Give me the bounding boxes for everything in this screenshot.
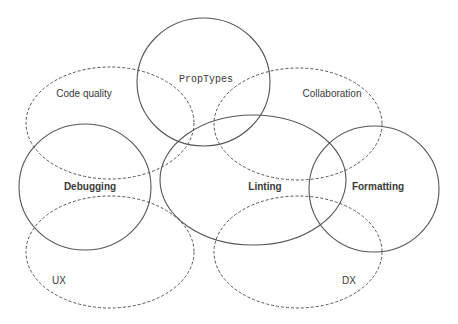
dx-label: DX (342, 275, 356, 286)
linting-ellipse (160, 115, 346, 245)
ux-ellipse (26, 196, 194, 308)
debugging-label: Debugging (64, 181, 116, 192)
label-layer: PropTypesCode qualityCollaborationDebugg… (52, 74, 404, 286)
collaboration-ellipse (214, 68, 382, 180)
collaboration-label: Collaboration (303, 88, 362, 99)
code-quality-label: Code quality (56, 88, 112, 99)
overlap-diagram: PropTypesCode qualityCollaborationDebugg… (0, 0, 458, 324)
linting-label: Linting (248, 181, 281, 192)
code-quality-ellipse (26, 67, 194, 179)
diagram-canvas: PropTypesCode qualityCollaborationDebugg… (0, 0, 458, 324)
ellipse-layer (19, 18, 439, 308)
ux-label: UX (52, 275, 66, 286)
dx-ellipse (214, 196, 382, 308)
proptypes-label: PropTypes (179, 74, 233, 85)
formatting-label: Formatting (352, 181, 404, 192)
